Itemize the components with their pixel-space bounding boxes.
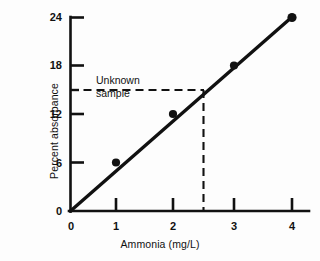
y-tick-label-18: 18: [34, 60, 62, 71]
x-tick-label-3: 3: [231, 221, 237, 232]
data-point-2: [169, 110, 177, 118]
calibration-line: [71, 17, 293, 211]
calibration-curve-chart: 24 18 12 6 0 0 1 2 3 4 Percent absorbanc…: [0, 0, 320, 261]
x-tick-label-4: 4: [289, 221, 295, 232]
x-axis-title: Ammonia (mg/L): [0, 238, 320, 250]
unknown-sample-annotation: Unknown sample: [96, 74, 140, 99]
x-tick-label-1: 1: [113, 221, 119, 232]
x-tick-label-0: 0: [68, 221, 74, 232]
data-point-1: [112, 158, 120, 166]
x-tick-label-2: 2: [170, 221, 176, 232]
unknown-sample-annotation-line1: Unknown: [96, 74, 140, 87]
unknown-sample-annotation-line2: sample: [96, 87, 140, 100]
y-tick-label-0: 0: [34, 206, 62, 217]
data-point-3: [230, 61, 238, 69]
data-point-4: [287, 13, 296, 22]
y-tick-label-24: 24: [34, 12, 62, 23]
y-axis-title: Percent absorbance: [48, 83, 60, 179]
